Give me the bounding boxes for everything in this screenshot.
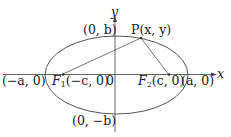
- x-axis-label: x: [217, 66, 224, 81]
- focus1-label: F1(−c, 0): [51, 73, 109, 89]
- bottom-vertex-label: (0, −b): [72, 113, 116, 128]
- segment-pf2: [141, 38, 169, 75]
- y-axis-label: y: [110, 4, 119, 19]
- top-vertex-label: (0, b): [83, 22, 117, 37]
- focus2-label: F2(c, 0): [137, 73, 184, 89]
- ellipse-diagram: y x (0, b) P(x, y) (−a, 0) F1(−c, 0) 0 F…: [0, 0, 231, 137]
- focus1-dot: [62, 73, 65, 76]
- point-p-dot: [140, 37, 143, 40]
- left-vertex-label: (−a, 0): [2, 73, 46, 88]
- point-p-label: P(x, y): [131, 22, 171, 37]
- origin-label: 0: [106, 73, 114, 88]
- right-vertex-label: (a, 0): [181, 73, 214, 88]
